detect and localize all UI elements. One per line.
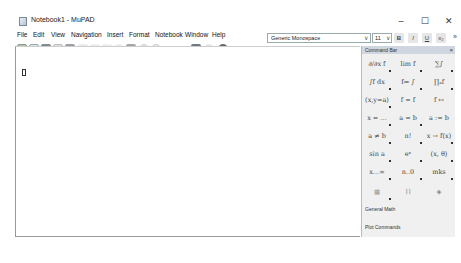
solve-button[interactable]: x = …: [362, 110, 392, 128]
menu-file[interactable]: File: [17, 31, 27, 38]
menu-edit[interactable]: Edit: [33, 31, 44, 38]
product-button[interactable]: ∏ₐf: [424, 74, 454, 92]
menu-notebook[interactable]: Notebook: [155, 31, 183, 38]
plot-commands-menu[interactable]: Plot Commands: [365, 224, 401, 230]
equals-button[interactable]: a = b: [393, 110, 423, 128]
function-map-button[interactable]: f ↦: [424, 92, 454, 110]
menu-insert[interactable]: Insert: [107, 31, 123, 38]
command-bar-title: Command Bar: [365, 47, 397, 53]
series-button[interactable]: x…∞: [362, 164, 392, 182]
simplify-button[interactable]: f = f: [393, 92, 423, 110]
font-size-select[interactable]: 11 ∨: [372, 33, 392, 43]
substitute-button[interactable]: (x,y=a): [362, 92, 392, 110]
close-icon[interactable]: ×: [449, 46, 453, 54]
range-button[interactable]: n..0: [393, 164, 423, 182]
chevron-down-icon: ∨: [386, 34, 390, 42]
assign-button[interactable]: a := b: [424, 110, 454, 128]
menu-window[interactable]: Window: [185, 31, 208, 38]
bold-button[interactable]: B: [394, 33, 404, 43]
input-region-marker[interactable]: [22, 69, 26, 76]
toolbar-overflow-button[interactable]: »: [453, 33, 457, 40]
mupad-app-icon: [19, 17, 27, 26]
close-button[interactable]: ✕: [439, 15, 459, 27]
sum-button[interactable]: ∑∫: [424, 56, 454, 74]
command-bar-header: Command Bar ×: [362, 46, 455, 54]
general-math-menu[interactable]: General Math: [365, 206, 395, 212]
italic-button[interactable]: I: [408, 33, 418, 43]
derivative-button[interactable]: ∂/∂x f: [362, 56, 392, 74]
menu-view[interactable]: View: [51, 31, 65, 38]
plot-3d-icon[interactable]: ◈: [424, 184, 454, 202]
factorial-button[interactable]: n!: [393, 128, 423, 146]
font-family-value: Generic Monospace: [271, 35, 320, 41]
exponential-button[interactable]: eˣ: [393, 146, 423, 164]
limit-button[interactable]: lim f: [393, 56, 423, 74]
menu-format[interactable]: Format: [129, 31, 150, 38]
matrix-icon[interactable]: ▦: [362, 184, 392, 202]
notebook-editor[interactable]: [15, 46, 360, 237]
window-title: Notebook1 - MuPAD: [31, 16, 95, 23]
arrow-function-button[interactable]: x → f(x): [424, 128, 454, 146]
mupad-window: Notebook1 - MuPAD – ☐ ✕ File Edit View N…: [15, 12, 461, 252]
subscript-button[interactable]: x₂: [436, 33, 446, 43]
plot-2d-icon[interactable]: ⌇⌇: [393, 184, 423, 202]
trig-button[interactable]: sin a: [362, 146, 392, 164]
integral-button[interactable]: ∫f dx: [362, 74, 392, 92]
coordinates-button[interactable]: (x, θ): [424, 146, 454, 164]
chevron-down-icon: ∨: [364, 34, 368, 42]
menu-navigation[interactable]: Navigation: [71, 31, 102, 38]
font-family-select[interactable]: Generic Monospace ∨: [267, 33, 371, 43]
maximize-button[interactable]: ☐: [415, 15, 435, 27]
not-equal-button[interactable]: a ≠ b: [362, 128, 392, 146]
title-bar: Notebook1 - MuPAD – ☐ ✕: [15, 12, 461, 30]
implies-button[interactable]: f⇒ ∫: [393, 74, 423, 92]
underline-button[interactable]: U: [422, 33, 432, 43]
command-bar-panel: Command Bar × ∂/∂x f lim f ∑∫ ∫f dx f⇒ ∫…: [361, 46, 455, 237]
units-button[interactable]: mks: [424, 164, 454, 182]
font-size-value: 11: [375, 35, 381, 41]
minimize-button[interactable]: –: [391, 15, 411, 27]
menu-help[interactable]: Help: [212, 31, 225, 38]
